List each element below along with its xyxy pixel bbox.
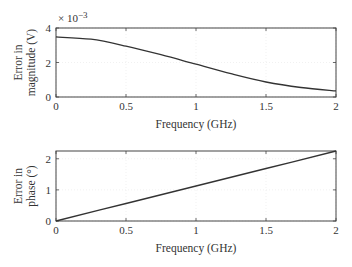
x-tick-label: 1.5 [259, 100, 273, 112]
x-tick-label: 1 [193, 100, 199, 112]
x-tick-label: 0.5 [119, 224, 133, 236]
y-tick-label: 2 [46, 153, 52, 165]
x-tick-label: 2 [333, 100, 339, 112]
y-tick-label: 2 [46, 57, 52, 69]
plot-magnitude: 00.511.52024Frequency (GHz)Error inmagni… [12, 10, 339, 131]
x-tick-label: 0.5 [119, 100, 133, 112]
x-tick-label: 2 [333, 224, 339, 236]
y-tick-label: 1 [46, 184, 52, 196]
y-tick-label: 0 [46, 91, 52, 103]
x-tick-label: 1.5 [259, 224, 273, 236]
x-tick-label: 0 [53, 224, 59, 236]
x-tick-label: 1 [193, 224, 199, 236]
y-axis-label: Error inphase (°) [12, 165, 38, 206]
x-axis-label: Frequency (GHz) [156, 118, 237, 131]
x-axis-label: Frequency (GHz) [156, 242, 237, 255]
y-tick-label: 0 [46, 215, 52, 227]
chart-figure: 00.511.52024Frequency (GHz)Error inmagni… [0, 0, 352, 267]
plot-phase: 00.511.52012Frequency (GHz)Error inphase… [12, 151, 339, 255]
series-line [56, 151, 336, 221]
y-multiplier: × 10−3 [58, 10, 88, 24]
x-tick-label: 0 [53, 100, 59, 112]
y-axis-label: Error inmagnitude (V) [12, 29, 38, 97]
y-tick-label: 4 [46, 22, 52, 34]
